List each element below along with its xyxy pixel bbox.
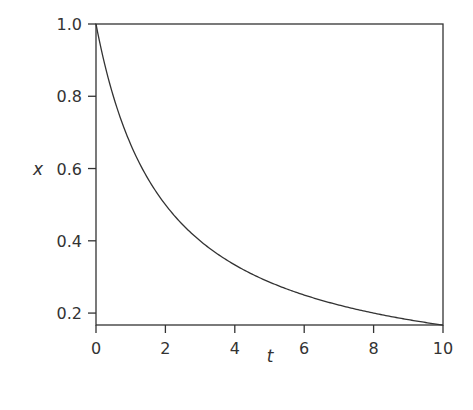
x-tick-label: 4 [230,339,240,358]
y-axis-ticks: 0.20.40.60.81.0 [57,15,96,323]
x-tick-label: 10 [433,339,453,358]
data-curve [96,24,443,325]
x-axis-label: t [267,346,275,366]
y-tick-label: 0.4 [57,232,82,251]
x-tick-label: 8 [369,339,379,358]
plot-frame [96,24,443,325]
y-tick-label: 1.0 [57,15,82,34]
chart: 0.20.40.60.81.0 0246810 t x [0,0,473,410]
y-axis-label: x [32,159,44,179]
y-tick-label: 0.2 [57,304,82,323]
x-tick-label: 0 [91,339,101,358]
x-tick-label: 2 [160,339,170,358]
y-tick-label: 0.6 [57,160,82,179]
x-tick-label: 6 [299,339,309,358]
plot-border [96,24,443,325]
y-tick-label: 0.8 [57,87,82,106]
